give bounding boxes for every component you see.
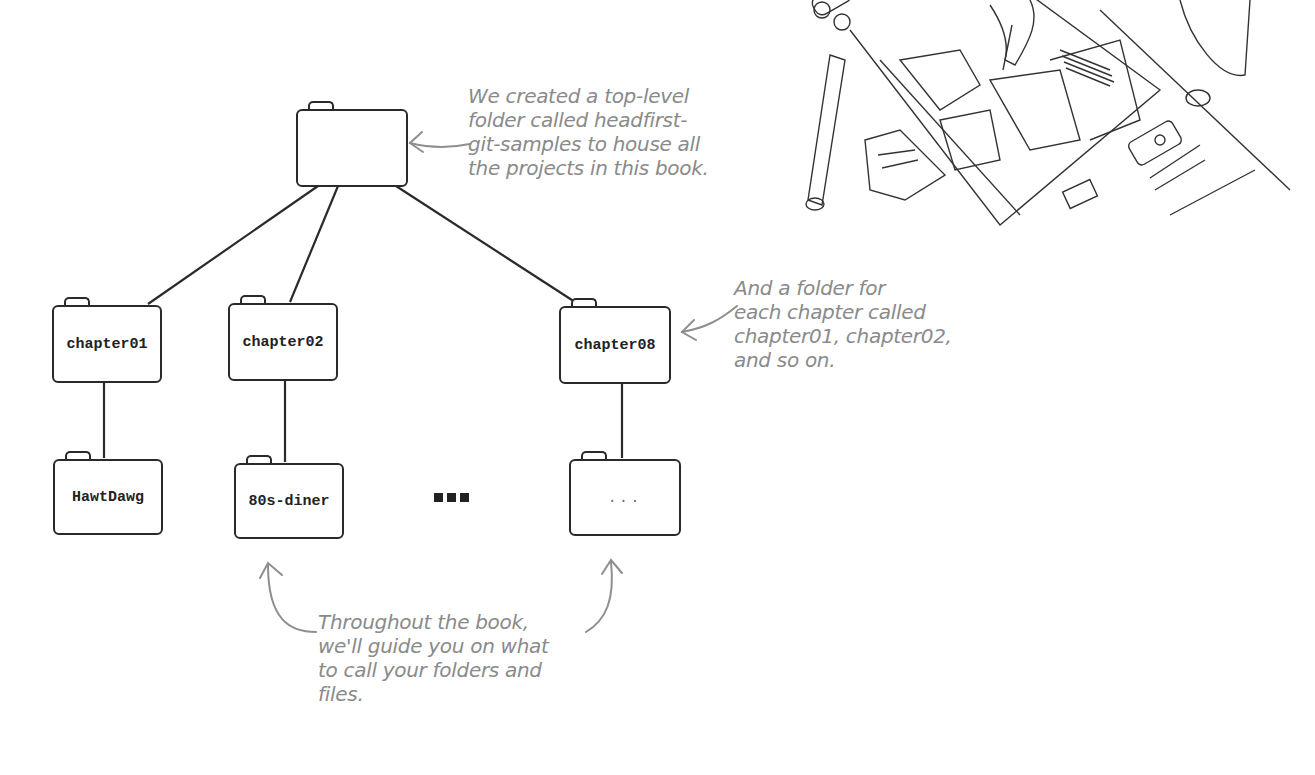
arrow-to-80s-diner — [268, 565, 316, 632]
folder-chapter01: chapter01 — [52, 297, 162, 383]
annotation-naming-guidance: Throughout the book, we'll guide you on … — [318, 610, 549, 706]
annotation-chapter-folders: And a folder for each chapter called cha… — [734, 276, 952, 372]
folder-chapter02: chapter02 — [228, 295, 338, 381]
folder-placeholder: ... — [569, 451, 681, 536]
folder-structure-diagram: chapter01 chapter02 chapter08 HawtDawg 8… — [0, 0, 1315, 775]
arrow-to-chapter08 — [682, 306, 737, 332]
arrow-to-root — [410, 143, 470, 147]
folder-label: ... — [569, 459, 681, 536]
folder-label: chapter08 — [559, 306, 671, 384]
folder-label: HawtDawg — [53, 459, 163, 535]
folder-80s-diner: 80s-diner — [234, 455, 344, 539]
folder-label — [296, 109, 408, 187]
folder-label: chapter02 — [228, 303, 338, 381]
folder-label: chapter01 — [52, 305, 162, 383]
folder-hawtdawg: HawtDawg — [53, 451, 163, 535]
more-folders-ellipsis — [434, 493, 469, 502]
arrow-to-dots-folder — [586, 562, 612, 632]
folder-chapter08: chapter08 — [559, 298, 671, 384]
folder-label: 80s-diner — [234, 463, 344, 539]
annotation-root-folder: We created a top-level folder called hea… — [468, 84, 709, 180]
drafting-illustration — [806, 0, 1290, 225]
folder-root — [296, 101, 408, 187]
